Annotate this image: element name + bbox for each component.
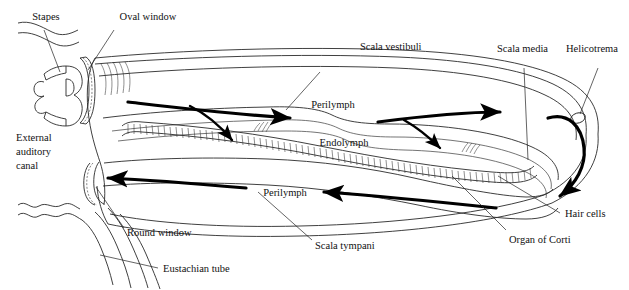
label-round-window: Round window [127,227,192,238]
label-stapes: Stapes [32,11,59,22]
scala-vestibuli [99,66,576,180]
basilar-hatching [128,124,531,183]
label-external-auditory-canal-1: External [16,132,52,143]
label-oval-window: Oval window [120,11,177,22]
label-organ-of-corti: Organ of Corti [509,234,571,245]
scala-media-duct [112,120,551,198]
label-eustachian-tube: Eustachian tube [163,263,230,274]
label-external-auditory-canal-3: canal [16,160,38,171]
round-window-membrane [84,162,104,205]
label-scala-media: Scala media [497,43,548,54]
label-external-auditory-canal-2: auditory [16,146,52,157]
label-perilymph-lower: Perilymph [263,187,307,198]
scala-tympani [103,158,558,219]
label-endolymph: Endolymph [320,137,370,148]
external-auditory-canal [18,22,82,220]
stapes-bone [34,66,82,126]
label-hair-cells: Hair cells [565,208,606,219]
label-scala-tympani: Scala tympani [315,240,375,251]
label-perilymph-upper: Perilymph [311,99,355,110]
diagram-canvas: Stapes Oval window Scala vestibuli Scala… [0,0,629,290]
label-scala-vestibuli: Scala vestibuli [360,41,422,52]
label-helicotrema: Helicotrema [566,43,618,54]
sound-vibration-arcs [101,62,130,95]
